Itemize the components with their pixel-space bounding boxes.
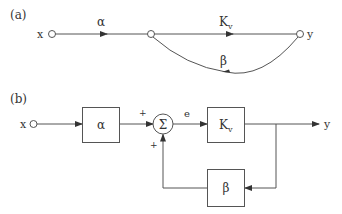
alpha-block-label: α	[97, 118, 105, 132]
block-diagram: (a) x α Kv β y (b) x α + Σ +	[0, 0, 342, 214]
output-node-label: y	[306, 28, 314, 41]
part-b-label: (b)	[10, 92, 27, 106]
sum-bottom-sign: +	[150, 140, 158, 150]
branch-kv-label: Kv	[219, 15, 233, 31]
output-label: y	[323, 118, 331, 131]
beta-block-label: β	[223, 181, 230, 195]
intermediate-node	[148, 31, 155, 38]
branch-beta-arrowhead	[222, 70, 230, 73]
branch-beta-label: β	[220, 54, 227, 68]
branch-alpha-label: α	[97, 15, 105, 29]
sum-top-sign: +	[139, 108, 147, 118]
input-node	[30, 121, 37, 128]
feedback-path-to-beta	[245, 124, 276, 188]
part-a-label: (a)	[10, 8, 27, 22]
error-label: e	[184, 108, 190, 119]
output-node	[297, 31, 304, 38]
signal-flow-graph: (a) x α Kv β y	[10, 8, 314, 73]
input-node	[49, 31, 56, 38]
input-label: x	[20, 118, 27, 131]
input-node-label: x	[37, 28, 44, 41]
summing-symbol: Σ	[159, 118, 167, 132]
beta-to-sum-path	[163, 135, 207, 189]
block-diagram-b: (b) x α + Σ + e Kv y β	[10, 92, 331, 207]
